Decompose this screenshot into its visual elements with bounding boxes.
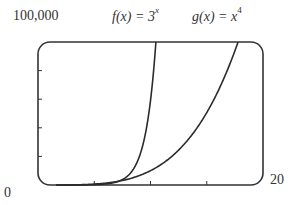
axis-ticks — [38, 71, 207, 185]
f-label-exponent: x — [155, 5, 159, 15]
g-curve — [56, 42, 238, 185]
curves — [56, 42, 238, 185]
f-curve-label: f(x) = 3x — [112, 7, 159, 25]
g-curve-label: g(x) = x4 — [192, 7, 242, 25]
x-axis-max-label: 20 — [270, 172, 284, 188]
g-label-text: g(x) = x — [192, 9, 237, 24]
f-label-text: f(x) = 3 — [112, 9, 155, 24]
f-curve — [56, 42, 156, 185]
g-label-exponent: 4 — [237, 5, 242, 15]
origin-label: 0 — [4, 185, 11, 201]
plot-area — [0, 0, 290, 205]
y-axis-max-label: 100,000 — [13, 8, 59, 24]
